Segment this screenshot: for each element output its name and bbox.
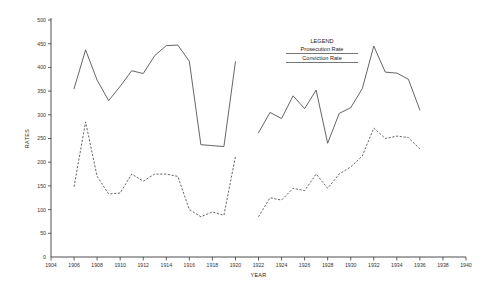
y-axis: 50100150200250300350400450500 RATES xyxy=(24,17,51,257)
x-tick-label-1938: 1938 xyxy=(437,262,449,268)
x-tick-label-1906: 1906 xyxy=(68,262,80,268)
origin-tick-label: 0 xyxy=(43,254,46,260)
y-tick-label-300: 300 xyxy=(37,112,46,118)
x-tick-label-1916: 1916 xyxy=(184,262,196,268)
x-axis-title: YEAR xyxy=(250,272,266,278)
x-tick-label-1930: 1930 xyxy=(345,262,357,268)
y-tick-label-250: 250 xyxy=(37,135,46,141)
x-tick-label-1920: 1920 xyxy=(230,262,242,268)
x-tick-label-1924: 1924 xyxy=(276,262,288,268)
chart-legend: LEGEND Prosecution Rate Conviction Rate xyxy=(286,38,358,63)
x-tick-label-1904: 1904 xyxy=(45,262,57,268)
x-tick-label-1918: 1918 xyxy=(207,262,219,268)
data-series-layer xyxy=(74,45,420,217)
x-tick-label-1940: 1940 xyxy=(460,262,472,268)
chart-container: 50100150200250300350400450500 RATES 1904… xyxy=(0,0,493,301)
y-tick-label-500: 500 xyxy=(37,17,46,23)
x-axis: 1904190619081910191219141916191819201922… xyxy=(43,254,472,278)
series-conviction-rate-segment-1-2 xyxy=(74,122,235,217)
series-prosecution-rate-segment-1-0 xyxy=(74,45,235,146)
y-tick-label-450: 450 xyxy=(37,41,46,47)
x-tick-label-1908: 1908 xyxy=(91,262,103,268)
x-tick-label-1926: 1926 xyxy=(299,262,311,268)
legend-entry-prosecution-rate: Prosecution Rate xyxy=(301,46,344,52)
y-tick-label-50: 50 xyxy=(40,230,46,236)
x-tick-label-1910: 1910 xyxy=(114,262,126,268)
x-tick-label-1912: 1912 xyxy=(137,262,149,268)
y-tick-label-400: 400 xyxy=(37,64,46,70)
x-tick-label-1932: 1932 xyxy=(368,262,380,268)
x-tick-label-1934: 1934 xyxy=(391,262,403,268)
legend-entry-conviction-rate: Conviction Rate xyxy=(302,55,342,61)
line-chart-plot: 50100150200250300350400450500 RATES 1904… xyxy=(0,0,493,301)
y-axis-ticks: 50100150200250300350400450500 xyxy=(37,17,51,236)
x-tick-label-1914: 1914 xyxy=(161,262,173,268)
x-tick-label-1936: 1936 xyxy=(414,262,426,268)
legend-title: LEGEND xyxy=(310,38,333,44)
series-conviction-rate-segment-1-3 xyxy=(259,128,420,217)
y-tick-label-100: 100 xyxy=(37,207,46,213)
y-tick-label-350: 350 xyxy=(37,88,46,94)
y-tick-label-200: 200 xyxy=(37,159,46,165)
x-tick-label-1928: 1928 xyxy=(322,262,334,268)
y-axis-title: RATES xyxy=(24,129,30,148)
x-tick-label-1922: 1922 xyxy=(253,262,265,268)
x-axis-ticks: 1904190619081910191219141916191819201922… xyxy=(45,257,472,268)
y-tick-label-150: 150 xyxy=(37,183,46,189)
